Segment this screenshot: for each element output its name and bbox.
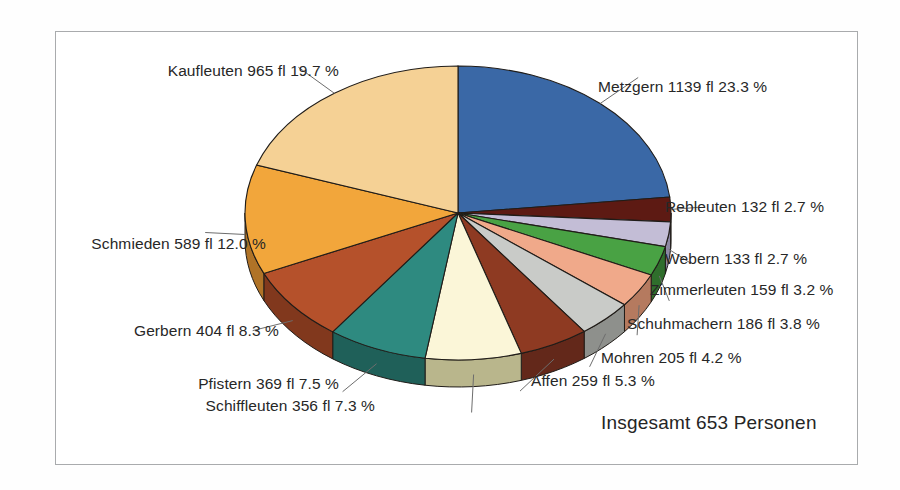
slice-label-schmieden: Schmieden 589 fl 12.0 % <box>14 235 266 252</box>
slice-label-schiffleuten: Schiffleuten 356 fl 7.3 % <box>110 397 375 414</box>
slice-label-pfistern: Pfistern 369 fl 7.5 % <box>14 375 339 392</box>
slice-label-affen: Affen 259 fl 5.3 % <box>531 372 655 389</box>
slice-label-webern: Webern 133 fl 2.7 % <box>665 250 807 267</box>
slice-label-kaufleuten: Kaufleuten 965 fl 19.7 % <box>14 62 339 79</box>
slice-label-mohren: Mohren 205 fl 4.2 % <box>601 349 742 366</box>
slice-label-zimmerleuten: Zimmerleuten 159 fl 3.2 % <box>650 281 833 298</box>
slice-label-rebleuten: Rebleuten 132 fl 2.7 % <box>665 198 824 215</box>
slice-label-metzgern: Metzgern 1139 fl 23.3 % <box>598 78 767 95</box>
total-personen-label: Insgesamt 653 Personen <box>601 412 817 434</box>
figure-page: Kaufleuten 965 fl 19.7 % Schmieden 589 f… <box>0 0 900 490</box>
slice-label-schuhmachern: Schuhmachern 186 fl 3.8 % <box>627 315 820 332</box>
slice-label-gerbern: Gerbern 404 fl 8.3 % <box>14 322 279 339</box>
